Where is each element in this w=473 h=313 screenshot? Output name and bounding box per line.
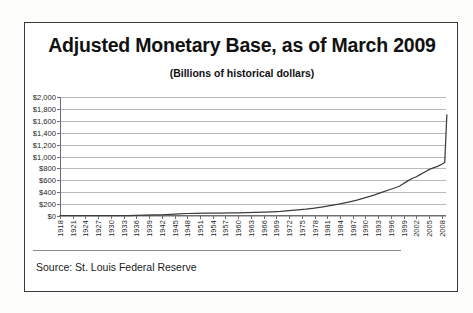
y-axis-tick-label: $1,400 <box>10 128 56 137</box>
x-axis-tick-mark <box>251 216 252 219</box>
y-axis-tick-mark <box>57 168 60 169</box>
x-axis-tick-label: 2002 <box>412 220 421 237</box>
x-axis-tick-mark <box>187 216 188 219</box>
x-axis-tick-label: 1984 <box>336 220 345 237</box>
x-axis-tick-label: 1921 <box>69 220 78 237</box>
x-axis-tick-label: 1975 <box>298 220 307 237</box>
y-axis-tick-mark <box>57 133 60 134</box>
x-axis-tick-label: 1936 <box>132 220 141 237</box>
y-axis-tick-label: $800 <box>10 164 56 173</box>
y-axis-tick-label: $600 <box>10 176 56 185</box>
x-axis-tick-label: 1981 <box>323 220 332 237</box>
x-axis-tick-mark <box>124 216 125 219</box>
x-axis-tick-label: 1933 <box>120 220 129 237</box>
x-axis-tick-label: 1987 <box>349 220 358 237</box>
x-axis-tick-mark <box>340 216 341 219</box>
x-axis-tick-mark <box>149 216 150 219</box>
footer-separator <box>33 250 401 251</box>
x-axis-tick-mark <box>315 216 316 219</box>
x-axis-tick-mark <box>365 216 366 219</box>
y-axis-tick-mark <box>57 97 60 98</box>
x-axis-tick-mark <box>175 216 176 219</box>
series-path-adjusted-monetary-base <box>60 115 447 216</box>
chart-frame: Adjusted Monetary Base, as of March 2009… <box>24 22 458 292</box>
y-axis-tick-label: $400 <box>10 188 56 197</box>
x-axis-tick-label: 1939 <box>145 220 154 237</box>
y-axis-tick-mark <box>57 204 60 205</box>
x-axis-tick-label: 1966 <box>260 220 269 237</box>
x-axis-tick-mark <box>442 216 443 219</box>
x-axis-tick-label: 1978 <box>311 220 320 237</box>
x-axis-tick-mark <box>111 216 112 219</box>
y-axis-tick-mark <box>57 192 60 193</box>
x-axis-tick-label: 1951 <box>196 220 205 237</box>
x-axis-tick-mark <box>276 216 277 219</box>
chart-plot-area: $2,000$1,800$1,600$1,400$1,200$1,000$800… <box>60 97 446 216</box>
y-axis-tick-label: $1,000 <box>10 152 56 161</box>
x-axis-tick-label: 1948 <box>183 220 192 237</box>
y-axis-tick-label: $1,600 <box>10 116 56 125</box>
x-axis-tick-mark <box>327 216 328 219</box>
x-axis-tick-label: 1960 <box>234 220 243 237</box>
x-axis-tick-label: 1930 <box>107 220 116 237</box>
x-axis-tick-label: 2008 <box>438 220 447 237</box>
x-axis-tick-label: 2005 <box>425 220 434 237</box>
x-axis-tick-mark <box>200 216 201 219</box>
x-axis-tick-mark <box>429 216 430 219</box>
x-axis-tick-label: 1999 <box>400 220 409 237</box>
x-axis-tick-mark <box>302 216 303 219</box>
y-axis-tick-label: $0 <box>10 212 56 221</box>
x-axis-tick-label: 1918 <box>56 220 65 237</box>
x-axis-tick-label: 1963 <box>247 220 256 237</box>
x-axis-tick-label: 1993 <box>374 220 383 237</box>
x-axis-tick-label: 1969 <box>272 220 281 237</box>
page-title: Adjusted Monetary Base, as of March 2009 <box>25 34 459 57</box>
x-axis-tick-mark <box>264 216 265 219</box>
x-axis-tick-mark <box>225 216 226 219</box>
x-axis-tick-mark <box>213 216 214 219</box>
y-axis-tick-mark <box>57 121 60 122</box>
y-axis-tick-mark <box>57 157 60 158</box>
x-axis-tick-mark <box>238 216 239 219</box>
x-axis-tick-mark <box>353 216 354 219</box>
x-axis-tick-label: 1990 <box>361 220 370 237</box>
series-line-chart <box>60 97 446 216</box>
chart-page: Adjusted Monetary Base, as of March 2009… <box>0 0 473 313</box>
x-axis-tick-mark <box>162 216 163 219</box>
x-axis-tick-label: 1972 <box>285 220 294 237</box>
y-axis-tick-label: $200 <box>10 200 56 209</box>
x-axis-tick-label: 1954 <box>209 220 218 237</box>
x-axis-tick-mark <box>136 216 137 219</box>
x-axis-tick-mark <box>391 216 392 219</box>
x-axis-tick-mark <box>85 216 86 219</box>
x-axis-tick-mark <box>404 216 405 219</box>
x-axis-tick-label: 1924 <box>81 220 90 237</box>
x-axis-tick-mark <box>289 216 290 219</box>
y-axis-tick-label: $1,200 <box>10 140 56 149</box>
x-axis-tick-label: 1942 <box>158 220 167 237</box>
x-axis-tick-mark <box>416 216 417 219</box>
x-axis-tick-mark <box>73 216 74 219</box>
chart-subtitle: (Billions of historical dollars) <box>25 67 459 79</box>
y-axis-tick-label: $1,800 <box>10 104 56 113</box>
y-axis-tick-mark <box>57 109 60 110</box>
source-caption: Source: St. Louis Federal Reserve <box>36 261 197 273</box>
y-axis-tick-mark <box>57 180 60 181</box>
x-axis-tick-label: 1957 <box>221 220 230 237</box>
y-axis-tick-mark <box>57 145 60 146</box>
x-axis-tick-label: 1927 <box>94 220 103 237</box>
x-axis-tick-mark <box>378 216 379 219</box>
x-axis-tick-mark <box>60 216 61 219</box>
x-axis-tick-label: 1996 <box>387 220 396 237</box>
x-axis-tick-label: 1945 <box>171 220 180 237</box>
x-axis-tick-mark <box>98 216 99 219</box>
y-axis-tick-label: $2,000 <box>10 93 56 102</box>
